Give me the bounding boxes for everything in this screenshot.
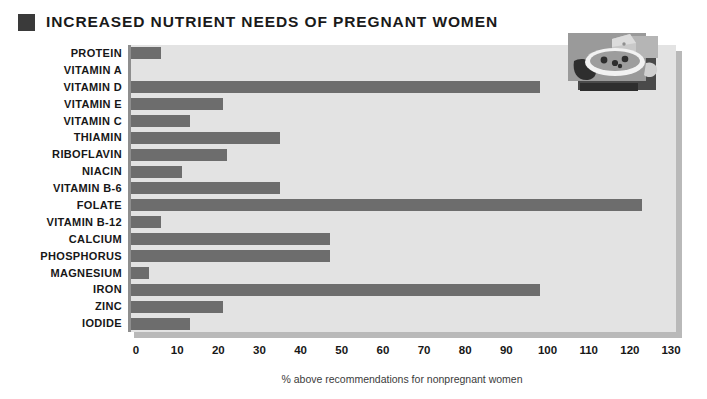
bar (128, 98, 223, 110)
x-axis-ticks: 0102030405060708090100110120130 (128, 344, 688, 362)
category-label: FOLATE (77, 197, 122, 214)
bar-row (128, 231, 330, 248)
bar (128, 182, 280, 194)
category-label: RIBOFLAVIN (52, 146, 122, 163)
bar (128, 115, 190, 127)
x-tick-label: 130 (661, 344, 680, 356)
x-tick-label: 120 (620, 344, 639, 356)
bar (128, 47, 161, 59)
square-bullet-icon (18, 14, 35, 31)
category-label: MAGNESIUM (50, 265, 122, 282)
x-tick-label: 40 (294, 344, 307, 356)
bar (128, 250, 330, 262)
category-axis-labels: PROTEINVITAMIN AVITAMIN DVITAMIN EVITAMI… (0, 45, 122, 332)
x-tick-label: 70 (418, 344, 431, 356)
category-label: PHOSPHORUS (40, 248, 122, 265)
category-label: VITAMIN E (64, 96, 122, 113)
bar (128, 233, 330, 245)
category-label: IODIDE (82, 315, 122, 332)
title-text: INCREASED NUTRIENT NEEDS OF PREGNANT WOM… (46, 13, 498, 31)
category-label: VITAMIN B-6 (53, 180, 122, 197)
bar-row (128, 113, 190, 130)
bar (128, 132, 280, 144)
x-tick-label: 100 (538, 344, 557, 356)
bar-row (128, 281, 540, 298)
bar-row (128, 197, 642, 214)
bar (128, 149, 227, 161)
x-tick-label: 20 (212, 344, 225, 356)
bar-row (128, 79, 540, 96)
bar-row (128, 163, 182, 180)
bar (128, 199, 642, 211)
bar (128, 166, 182, 178)
category-label: NIACIN (82, 163, 122, 180)
bar-row (128, 180, 280, 197)
bar (128, 267, 149, 279)
x-tick-label: 0 (133, 344, 139, 356)
y-axis-line (128, 45, 131, 332)
bar-row (128, 298, 223, 315)
bar-row (128, 315, 190, 332)
category-label: VITAMIN C (63, 113, 122, 130)
bar-row (128, 96, 223, 113)
page-title: INCREASED NUTRIENT NEEDS OF PREGNANT WOM… (18, 13, 498, 31)
bar-row (128, 248, 330, 265)
category-label: THIAMIN (74, 129, 122, 146)
bar (128, 301, 223, 313)
category-label: VITAMIN A (64, 62, 122, 79)
category-label: CALCIUM (69, 231, 122, 248)
category-label: ZINC (95, 298, 122, 315)
x-tick-label: 30 (253, 344, 266, 356)
bar-row (128, 45, 161, 62)
bar-row (128, 214, 161, 231)
bar (128, 318, 190, 330)
category-label: IRON (93, 281, 122, 298)
bar-row (128, 265, 149, 282)
category-label: VITAMIN B-12 (46, 214, 122, 231)
bar (128, 81, 540, 93)
x-tick-label: 90 (500, 344, 513, 356)
bar (128, 284, 540, 296)
bar-row (128, 146, 227, 163)
category-label: VITAMIN D (63, 79, 122, 96)
x-axis-caption: % above recommendations for nonpregnant … (128, 373, 676, 385)
x-tick-label: 60 (377, 344, 390, 356)
bar (128, 216, 161, 228)
x-tick-label: 80 (459, 344, 472, 356)
x-tick-label: 50 (335, 344, 348, 356)
x-tick-label: 110 (579, 344, 598, 356)
category-label: PROTEIN (71, 45, 122, 62)
x-tick-label: 10 (171, 344, 184, 356)
bar-row (128, 129, 280, 146)
food-plate-illustration (568, 33, 662, 95)
